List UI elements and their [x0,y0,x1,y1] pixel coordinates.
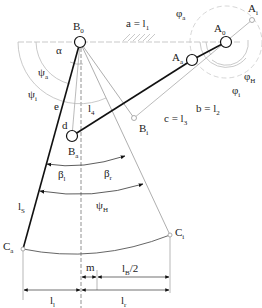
label-Ba: Ba [68,145,79,160]
label-ground: a = l1 [126,17,150,32]
label-psi-i: ψi [28,88,37,103]
label-psi-a: ψa [38,66,49,81]
beta-arc [47,156,125,166]
label-phi-i: φi [232,84,240,99]
label-Aa: Aa [172,51,184,66]
label-l-S: lS [18,200,25,215]
point-Ci-icon [168,233,172,237]
label-A0: A0 [214,22,226,37]
label-e: e [54,100,59,112]
mechanism-diagram: B0 A0 Ai Aa Ba Bi Ca Ci a = l1 b = l2 c … [0,0,262,308]
point-Ca-icon [21,247,25,251]
label-m: m [86,261,95,273]
label-crank: b = l2 [196,102,220,117]
label-psi-H: ψH [96,199,108,214]
label-Bi: Bi [139,122,148,137]
label-B0: B0 [73,20,84,35]
label-beta-r: βr [104,167,113,182]
psi-H-arc [40,184,143,194]
rocker-inner-extension [80,42,170,235]
label-alpha: α [56,44,62,56]
label-rocker: l4 [88,102,95,117]
joint-B0-icon [75,37,86,48]
label-d: d [62,119,68,131]
joint-Ai-icon [250,18,255,23]
label-beta-l: βl [58,168,66,183]
joint-Aa-icon [187,55,198,66]
label-l-r: lr [121,294,127,308]
label-Ci: Ci [175,226,184,241]
label-l-l: ll [50,294,55,308]
label-phi-a: φa [176,7,186,22]
label-phi-H: φH [244,70,255,85]
joint-Ba-icon [67,131,78,142]
c-trajectory-arc [23,235,170,254]
joint-Bi-icon [132,116,137,121]
label-lB-half: lB/2 [122,262,138,277]
coupler-line [72,60,192,136]
label-coupler: c = l3 [164,112,188,127]
ground-hatch-icon [123,34,155,41]
label-Ca: Ca [3,240,14,255]
coupler-inner-line [134,20,252,118]
joint-A0-icon [221,37,232,48]
